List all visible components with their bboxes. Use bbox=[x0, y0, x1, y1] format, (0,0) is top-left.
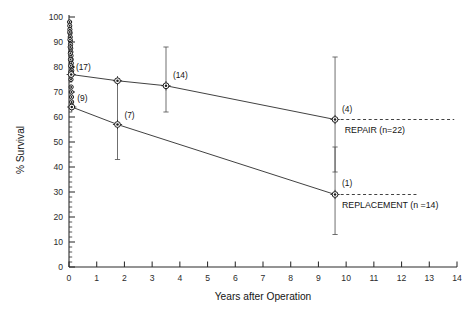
point-annotation: (4) bbox=[342, 104, 352, 114]
cluster-marker-core bbox=[69, 46, 71, 48]
x-tick-group bbox=[69, 262, 457, 268]
x-tick-label: 7 bbox=[261, 273, 266, 283]
x-axis-title: Years after Operation bbox=[215, 291, 311, 302]
early-cluster-markers bbox=[67, 20, 74, 109]
series-line-repair bbox=[71, 75, 335, 120]
x-tick-label: 12 bbox=[397, 273, 407, 283]
chart-canvas: 0102030405060708090100 % Survival 012345… bbox=[0, 0, 471, 312]
x-axis-group: 01234567891011121314 Years after Operati… bbox=[67, 262, 462, 303]
series-line-replacement bbox=[72, 107, 335, 195]
group-label-replacement: REPLACEMENT (n =14) bbox=[342, 200, 438, 210]
x-tick-label: 13 bbox=[425, 273, 435, 283]
cluster-marker-core bbox=[69, 21, 71, 23]
data-point-core bbox=[71, 106, 74, 109]
data-point-core bbox=[334, 118, 337, 121]
y-tick-label-group: 0102030405060708090100 bbox=[49, 12, 64, 272]
x-tick-label: 2 bbox=[122, 273, 127, 283]
y-tick-label: 50 bbox=[53, 137, 63, 147]
cluster-marker-core bbox=[70, 65, 72, 67]
y-tick-label: 30 bbox=[53, 187, 63, 197]
cluster-marker-core bbox=[69, 25, 71, 27]
data-point-core bbox=[116, 80, 119, 83]
x-tick-label: 1 bbox=[94, 273, 99, 283]
cluster-marker-core bbox=[69, 31, 71, 33]
x-tick-label: 11 bbox=[369, 273, 378, 283]
x-tick-label: 6 bbox=[233, 273, 238, 283]
data-point-core bbox=[334, 193, 337, 196]
survival-chart: 0102030405060708090100 % Survival 012345… bbox=[0, 0, 471, 312]
data-point-core bbox=[116, 123, 119, 126]
cluster-marker-core bbox=[70, 86, 72, 88]
point-annotation: (14) bbox=[173, 70, 188, 80]
y-axis-group: 0102030405060708090100 % Survival bbox=[15, 12, 75, 272]
y-tick-label: 100 bbox=[49, 12, 64, 22]
x-tick-label: 8 bbox=[288, 273, 293, 283]
y-tick-label: 0 bbox=[58, 262, 63, 272]
y-tick-label: 90 bbox=[53, 37, 63, 47]
cluster-marker-core bbox=[71, 96, 73, 98]
cluster-marker-core bbox=[69, 52, 71, 54]
x-tick-label: 4 bbox=[177, 273, 182, 283]
x-tick-label: 9 bbox=[316, 273, 321, 283]
y-tick-label: 10 bbox=[53, 237, 63, 247]
curve-layer bbox=[71, 75, 335, 195]
point-annotation: (9) bbox=[77, 93, 87, 103]
group-label-repair: REPAIR (n=22) bbox=[345, 125, 405, 135]
y-tick-label: 80 bbox=[53, 62, 63, 72]
y-tick-label: 70 bbox=[53, 87, 63, 97]
cluster-marker-core bbox=[70, 91, 72, 93]
x-tick-label: 3 bbox=[150, 273, 155, 283]
x-tick-label: 10 bbox=[341, 273, 351, 283]
y-tick-label: 20 bbox=[53, 212, 63, 222]
x-tick-label-group: 01234567891011121314 bbox=[67, 273, 462, 283]
x-tick-label: 5 bbox=[205, 273, 210, 283]
data-point-core bbox=[70, 73, 73, 76]
group-label-layer: REPAIR (n=22)REPLACEMENT (n =14) bbox=[342, 125, 438, 210]
x-tick-label: 14 bbox=[452, 273, 462, 283]
y-axis-title: % Survival bbox=[15, 126, 26, 174]
data-point-core bbox=[165, 85, 168, 88]
point-annotation: (17) bbox=[76, 62, 91, 72]
point-annotation: (7) bbox=[124, 110, 134, 120]
error-bar-layer bbox=[115, 47, 338, 235]
data-point-marker-layer bbox=[67, 70, 340, 199]
cluster-marker-core bbox=[70, 59, 72, 61]
y-tick-label: 60 bbox=[53, 112, 63, 122]
x-tick-label: 0 bbox=[67, 273, 72, 283]
point-annotation: (1) bbox=[342, 178, 352, 188]
cluster-marker-core bbox=[69, 39, 71, 41]
y-tick-label: 40 bbox=[53, 162, 63, 172]
